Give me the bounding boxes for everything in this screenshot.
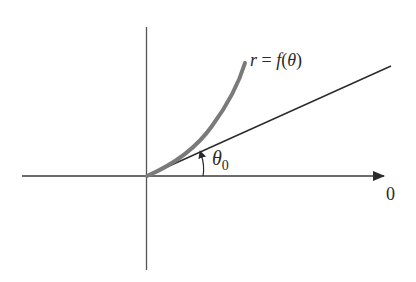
tangent-ray bbox=[147, 66, 391, 176]
angle-arc bbox=[201, 154, 204, 176]
angle-label: θ0 bbox=[212, 147, 229, 173]
polar-diagram: r = f(θ) θ0 0 bbox=[0, 0, 416, 282]
polar-curve bbox=[147, 63, 245, 176]
polar-axis-label: 0 bbox=[386, 184, 395, 204]
curve-label: r = f(θ) bbox=[250, 50, 302, 71]
